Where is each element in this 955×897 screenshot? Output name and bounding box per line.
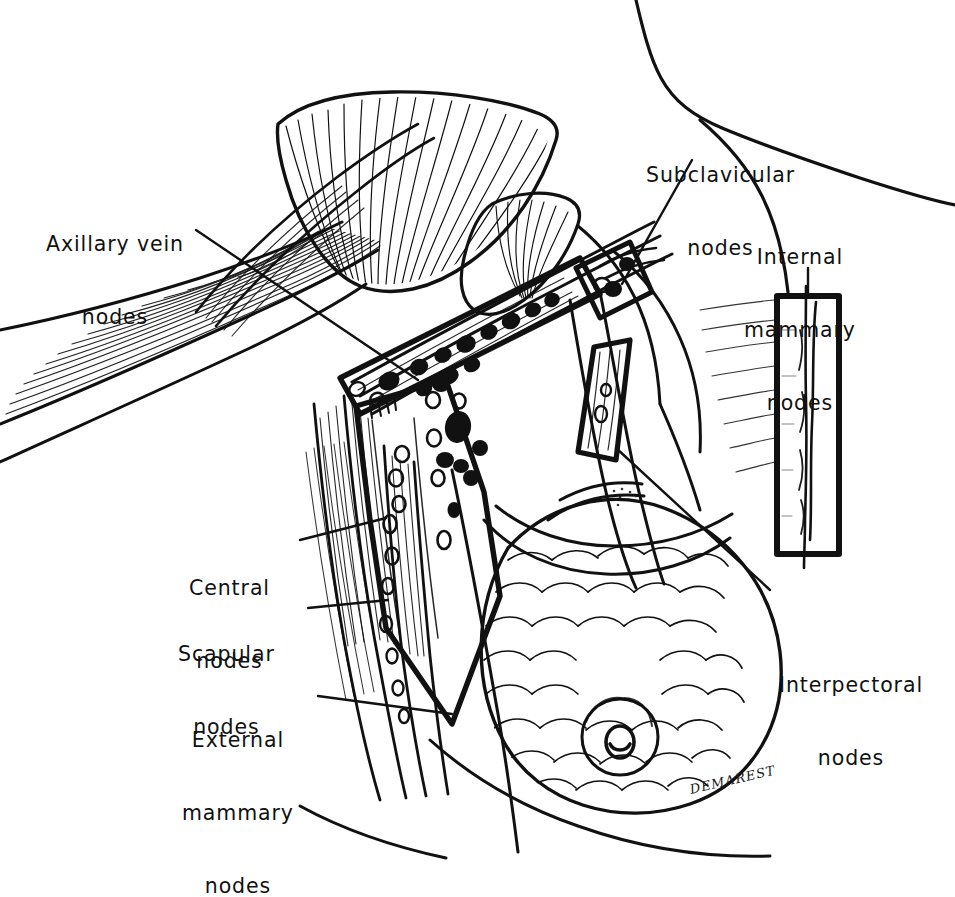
label-internal-mammary-line1: Internal xyxy=(744,245,856,269)
label-interpectoral-nodes: Interpectoral nodes xyxy=(779,625,923,819)
deltoid-lines xyxy=(196,124,434,326)
label-axillary-vein-nodes: Axillary vein nodes xyxy=(46,184,184,378)
breast-lobules xyxy=(484,547,744,790)
label-external-mammary-nodes: External mammary nodes xyxy=(182,680,294,897)
label-interpectoral-line1: Interpectoral xyxy=(779,673,923,697)
label-external-mammary-line1: External xyxy=(182,728,294,752)
label-external-mammary-line3: nodes xyxy=(182,874,294,897)
label-internal-mammary-nodes: Internal mammary nodes xyxy=(744,197,856,463)
label-interpectoral-line2: nodes xyxy=(779,746,923,770)
label-scapular-line1: Scapular xyxy=(178,642,275,666)
interpectoral-box xyxy=(578,340,630,460)
nipple xyxy=(606,726,634,758)
label-internal-mammary-line3: nodes xyxy=(744,391,856,415)
label-internal-mammary-line2: mammary xyxy=(744,318,856,342)
breast-upper-fold xyxy=(484,506,732,574)
label-subclavicular-line1: Subclavicular xyxy=(646,163,795,187)
label-external-mammary-line2: mammary xyxy=(182,801,294,825)
label-axillary-vein-line2: nodes xyxy=(46,305,184,329)
label-axillary-vein-line1: Axillary vein xyxy=(46,232,184,256)
